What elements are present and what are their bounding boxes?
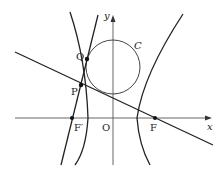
point-fprime xyxy=(70,116,74,120)
hyperbola-right-branch xyxy=(137,14,183,165)
point-f xyxy=(153,116,157,120)
line-p-f xyxy=(15,52,213,145)
label-f: F xyxy=(150,122,157,133)
point-p xyxy=(79,83,83,87)
label-p: P xyxy=(71,86,78,97)
label-circle-c: C xyxy=(134,40,142,51)
label-q: Q xyxy=(76,51,84,62)
point-q xyxy=(85,57,89,61)
label-fprime: F′ xyxy=(74,122,84,133)
label-x: x xyxy=(207,121,213,132)
y-axis xyxy=(111,15,116,165)
x-axis xyxy=(15,116,212,121)
line-fprime-p-q xyxy=(61,15,98,165)
y-axis-arrow-icon xyxy=(111,15,116,22)
label-origin: O xyxy=(102,122,110,133)
diagram-canvas: y x O C P Q F′ F xyxy=(0,0,223,184)
x-axis-arrow-icon xyxy=(205,116,212,121)
label-y: y xyxy=(103,10,110,21)
